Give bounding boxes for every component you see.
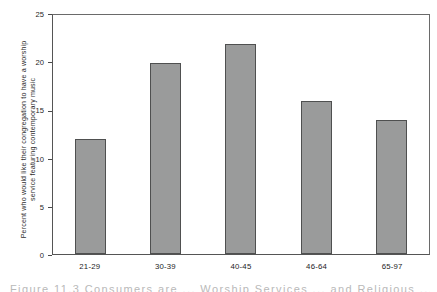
bar-30-39[interactable] [150, 63, 181, 254]
y-tick-label-5: 5 [18, 203, 44, 212]
bar-slot-40-45 [203, 15, 278, 254]
y-tick-label-0: 0 [18, 251, 44, 260]
y-axis-title-line2: service featuring contemporary music [29, 14, 38, 264]
bar-21-29[interactable] [75, 139, 106, 254]
x-tick-label-40-45: 40-45 [203, 262, 279, 271]
bar-slot-46-64 [279, 15, 354, 254]
bar-46-64[interactable] [301, 101, 332, 254]
x-tick-label-21-29: 21-29 [52, 262, 128, 271]
bar-group [53, 15, 429, 254]
figure-caption-cropped: Figure 11.3 Consumers are ... Worship Se… [10, 283, 430, 292]
plot-area [52, 14, 430, 255]
y-tick-label-25: 25 [18, 10, 44, 19]
bar-65-97[interactable] [376, 120, 407, 254]
bar-40-45[interactable] [225, 44, 256, 254]
x-axis-labels: 21-29 30-39 40-45 46-64 65-97 [52, 262, 430, 271]
bar-slot-30-39 [128, 15, 203, 254]
bar-slot-65-97 [354, 15, 429, 254]
y-tick-label-15: 15 [18, 106, 44, 115]
y-axis-title: Percent who would like their congregatio… [20, 14, 39, 264]
y-tick-mark-0 [48, 255, 52, 256]
x-tick-label-30-39: 30-39 [128, 262, 204, 271]
figure-container: Percent who would like their congregatio… [0, 0, 437, 292]
y-tick-label-10: 10 [18, 155, 44, 164]
y-tick-label-20: 20 [18, 58, 44, 67]
x-tick-label-65-97: 65-97 [354, 262, 430, 271]
bar-slot-21-29 [53, 15, 128, 254]
x-tick-label-46-64: 46-64 [279, 262, 355, 271]
